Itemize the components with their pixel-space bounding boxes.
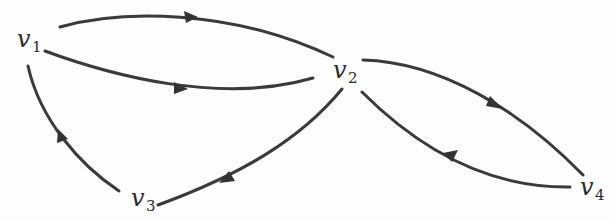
node-label: v	[580, 173, 594, 201]
arrowhead-icon	[174, 82, 188, 94]
node-subscript: 2	[348, 69, 358, 87]
node-v3: v 3	[131, 184, 156, 215]
node-subscript: 3	[146, 197, 156, 215]
node-label: v	[333, 56, 347, 84]
edge-v1-v2-lower	[45, 51, 313, 94]
graph-canvas: v 1 v 2 v 3 v 4	[0, 0, 615, 221]
node-label: v	[131, 184, 145, 212]
node-v2: v 2	[333, 56, 358, 87]
node-subscript: 4	[595, 186, 605, 204]
arrowhead-icon	[184, 11, 198, 23]
node-label: v	[17, 25, 31, 53]
graph-svg: v 1 v 2 v 3 v 4	[0, 0, 615, 221]
edge-v3-v1	[28, 66, 119, 191]
node-v1: v 1	[17, 25, 42, 56]
edge-v2-v4-upper	[363, 60, 583, 175]
edge-v4-v2-lower	[362, 92, 570, 187]
edge-v2-v3	[158, 89, 342, 205]
node-v4: v 4	[580, 173, 605, 204]
node-subscript: 1	[32, 38, 42, 56]
edge-v1-v2-upper	[60, 11, 333, 57]
